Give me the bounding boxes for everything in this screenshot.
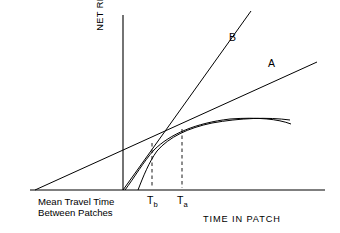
tick-label-ta: Ta	[177, 194, 188, 207]
mean-travel-time-line2: Between Patches	[38, 207, 114, 218]
y-axis-label: CUMULATIVE NET RESOURCE HARVEST	[84, 0, 112, 42]
mean-travel-time-label: Mean Travel Time Between Patches	[38, 196, 114, 219]
tick-label-tb: Tb	[147, 194, 158, 207]
mean-travel-time-line1: Mean Travel Time	[38, 196, 114, 207]
curve-label-a: A	[268, 57, 275, 69]
gain-curve-b	[138, 118, 290, 190]
tangent-line-a	[35, 62, 317, 190]
tick-label-ta-sub: a	[183, 200, 187, 209]
tick-label-tb-sub: b	[153, 200, 157, 209]
curve-label-b: B	[229, 31, 236, 43]
marginal-value-theorem-figure: CUMULATIVE NET RESOURCE HARVEST TIME IN …	[0, 0, 340, 233]
gain-curve-a	[125, 118, 291, 190]
x-axis-label: TIME IN PATCH	[203, 214, 281, 225]
y-axis-label-line1: CUMULATIVE	[84, 0, 95, 42]
y-axis-label-line2: NET RESOURCE HARVEST	[95, 0, 106, 42]
